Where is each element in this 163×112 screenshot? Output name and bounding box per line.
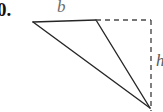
- triangle-hypotenuse-edge: [33, 22, 150, 108]
- problem-number-label: 0.: [0, 0, 11, 20]
- geometry-figure: 0. b h: [0, 0, 163, 112]
- height-label: h: [156, 52, 163, 70]
- triangle-right-edge: [96, 20, 150, 108]
- triangle-top-edge: [33, 20, 96, 22]
- solid-triangle-edges: [33, 20, 150, 108]
- base-label: b: [57, 0, 66, 16]
- triangle-diagram-svg: [0, 0, 163, 112]
